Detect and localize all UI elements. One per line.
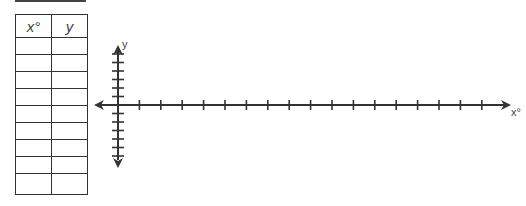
coordinate-plane: y x° xyxy=(0,0,526,206)
y-axis-label: y xyxy=(122,38,128,50)
x-axis-label: x° xyxy=(511,106,521,118)
